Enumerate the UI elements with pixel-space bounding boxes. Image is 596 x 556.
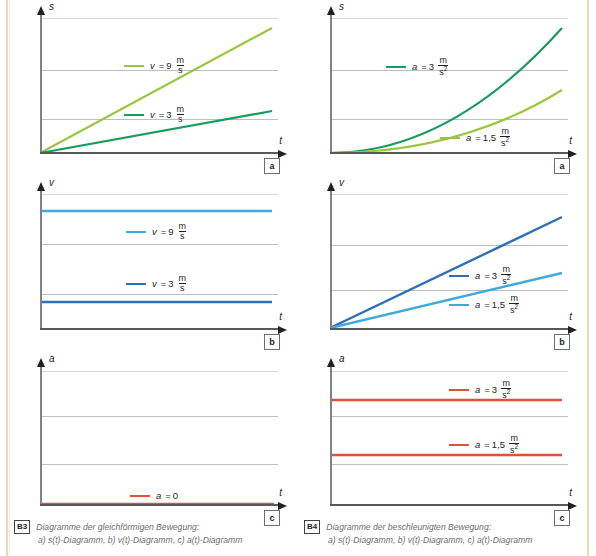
y-axis-label: s	[339, 1, 344, 12]
legend-symbol: a	[475, 299, 480, 310]
equals-sign: =	[159, 60, 165, 71]
unit-denominator: s2	[509, 443, 519, 455]
plot-area: a t a = 0 c	[40, 366, 278, 506]
legend-swatch	[449, 444, 469, 446]
x-axis-arrow-icon	[568, 502, 577, 510]
unit-exponent: 2	[515, 303, 519, 310]
unit-fraction: m s2	[501, 265, 511, 286]
legend-value: 1,5	[492, 439, 505, 450]
panel-tag-a: a	[554, 158, 570, 174]
equals-sign: =	[484, 384, 490, 395]
legend-symbol: v	[150, 109, 155, 120]
legend-item: v = 3 m s	[126, 274, 187, 293]
x-axis-arrow-icon	[568, 326, 577, 334]
series-lines	[40, 190, 278, 330]
legend-item: v = 9 m s	[126, 222, 187, 241]
y-axis	[330, 190, 332, 330]
y-axis-arrow-icon	[327, 182, 335, 191]
x-axis-arrow-icon	[278, 150, 287, 158]
chart-b4-c: a t a = 3 m s2	[304, 356, 582, 524]
legend-label: v = 9 m s	[152, 222, 187, 241]
y-axis-arrow-icon	[37, 358, 45, 367]
legend-symbol: a	[156, 490, 161, 501]
page-rule-left-inner	[9, 0, 10, 556]
y-axis-label: v	[339, 177, 344, 188]
figure-b3: s t v = 9 m s	[14, 0, 292, 556]
x-axis-label: t	[279, 487, 282, 498]
legend-symbol: a	[466, 132, 471, 143]
x-axis-label: t	[279, 311, 282, 322]
unit-fraction: m s2	[438, 56, 448, 77]
x-axis-label: t	[279, 135, 282, 146]
legend-label: a = 1,5 m s2	[475, 434, 519, 455]
equals-sign: =	[484, 299, 490, 310]
x-axis-label: t	[569, 487, 572, 498]
legend-swatch	[449, 275, 469, 277]
legend-symbol: v	[150, 60, 155, 71]
unit-fraction: m s	[176, 56, 186, 75]
caption-line-2: a) s(t)-Diagramm, b) v(t)-Diagramm, c) a…	[38, 534, 296, 546]
unit-denominator: s2	[501, 388, 511, 400]
x-axis	[40, 328, 278, 330]
legend-symbol: v	[152, 278, 157, 289]
legend-value: 1,5	[483, 132, 496, 143]
legend-swatch	[130, 495, 150, 497]
y-axis-label: a	[49, 353, 55, 364]
unit-numerator: m	[438, 56, 448, 65]
chart-b3-c: a t a = 0 c	[14, 356, 292, 524]
legend-swatch	[126, 231, 146, 233]
x-axis-label: t	[569, 135, 572, 146]
legend-symbol: a	[475, 439, 480, 450]
unit-exponent: 2	[507, 388, 511, 395]
legend-value: 0	[173, 490, 178, 501]
unit-denominator: s2	[438, 65, 448, 77]
y-axis-arrow-icon	[37, 182, 45, 191]
unit-fraction: m s2	[509, 434, 519, 455]
equals-sign: =	[484, 270, 490, 281]
unit-fraction: m s2	[509, 294, 519, 315]
plot-area: a t a = 3 m s2	[330, 366, 568, 506]
equals-sign: =	[159, 109, 165, 120]
x-axis	[330, 328, 568, 330]
plot-area: s t a = 3 m s2	[330, 14, 568, 154]
legend-swatch	[124, 65, 144, 67]
unit-fraction: m s	[178, 222, 188, 241]
page-rule-left	[6, 0, 8, 556]
legend-symbol: a	[475, 384, 480, 395]
legend-symbol: a	[475, 270, 480, 281]
x-axis-arrow-icon	[278, 326, 287, 334]
legend-item: a = 3 m s2	[386, 56, 448, 77]
legend-item: a = 1,5 m s2	[449, 294, 519, 315]
legend-swatch	[124, 114, 144, 116]
y-axis	[330, 14, 332, 154]
caption-line-1: Diagramme der beschleunigten Bewegung:	[326, 522, 491, 532]
panel-tag-b: b	[554, 334, 570, 350]
legend-swatch	[449, 389, 469, 391]
series-lines	[40, 366, 278, 506]
unit-numerator: m	[178, 222, 188, 231]
legend-item: a = 3 m s2	[449, 379, 511, 400]
y-axis	[330, 366, 332, 506]
x-axis	[330, 152, 568, 154]
legend-swatch	[440, 137, 460, 139]
unit-fraction: m s2	[500, 127, 510, 148]
equals-sign: =	[161, 226, 167, 237]
legend-swatch	[386, 66, 406, 68]
unit-numerator: m	[500, 127, 510, 136]
legend-label: a = 3 m s2	[475, 265, 511, 286]
unit-numerator: m	[176, 56, 186, 65]
legend-label: v = 3 m s	[150, 105, 185, 124]
x-axis	[40, 152, 278, 154]
chart-b4-b: v t a = 3 m s2	[304, 180, 582, 348]
legend-label: a = 3 m s2	[412, 56, 448, 77]
unit-fraction: m s2	[501, 379, 511, 400]
unit-numerator: m	[176, 105, 186, 114]
legend-swatch	[126, 283, 146, 285]
legend-value: 3	[166, 109, 171, 120]
unit-numerator: m	[509, 434, 519, 443]
legend-value: 1,5	[492, 299, 505, 310]
figure-b4: s t a = 3 m s2	[304, 0, 582, 556]
legend-label: v = 9 m s	[150, 56, 185, 75]
unit-numerator: m	[509, 294, 519, 303]
y-axis	[40, 14, 42, 154]
